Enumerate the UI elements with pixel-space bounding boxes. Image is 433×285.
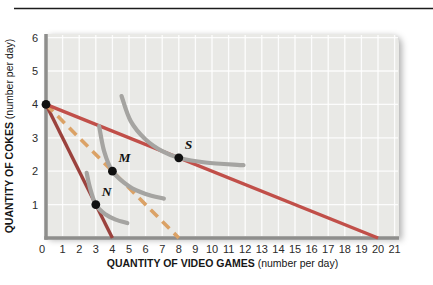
x-tick-label: 21 xyxy=(388,243,400,255)
y-tick-label: 4 xyxy=(32,98,38,110)
x-tick-label: 11 xyxy=(223,243,234,255)
x-tick-label: 0 xyxy=(39,243,45,255)
x-tick-label: 12 xyxy=(239,243,251,255)
x-tick-label: 2 xyxy=(76,243,82,255)
point-label-M: M xyxy=(117,150,131,165)
x-tick-label: 7 xyxy=(159,243,165,255)
x-tick-label: 15 xyxy=(289,243,301,255)
x-tick-label: 4 xyxy=(109,243,115,255)
point-N xyxy=(91,200,100,209)
x-tick-label: 6 xyxy=(143,243,149,255)
x-tick-label: 19 xyxy=(355,243,367,255)
x-tick-label: 3 xyxy=(93,243,99,255)
x-tick-label: 18 xyxy=(339,243,351,255)
point-S xyxy=(174,153,183,162)
x-tick-label: 14 xyxy=(272,243,284,255)
y-tick-label: 5 xyxy=(32,65,38,77)
y-tick-label: 6 xyxy=(32,32,38,44)
point-y-intercept xyxy=(42,100,51,109)
x-tick-label: 20 xyxy=(372,243,384,255)
point-M xyxy=(108,167,117,176)
point-label-S: S xyxy=(185,137,193,152)
y-axis-title: QUANTITY OF COKES (number per day) xyxy=(3,39,15,234)
x-tick-label: 9 xyxy=(192,243,198,255)
x-tick-label: 5 xyxy=(126,243,132,255)
budget-lines-indifference-curves-chart: NMS0123456789101112131415161718192021123… xyxy=(0,0,433,285)
y-tick-label: 2 xyxy=(32,165,38,177)
x-axis-title: QUANTITY OF VIDEO GAMES (number per day) xyxy=(107,257,338,269)
x-tick-label: 8 xyxy=(176,243,182,255)
y-tick-label: 3 xyxy=(32,132,38,144)
x-tick-label: 10 xyxy=(206,243,218,255)
x-tick-label: 13 xyxy=(256,243,268,255)
x-tick-label: 17 xyxy=(322,243,334,255)
textbook-figure: NMS0123456789101112131415161718192021123… xyxy=(0,0,433,285)
point-label-N: N xyxy=(101,184,113,199)
x-tick-label: 16 xyxy=(305,243,317,255)
x-tick-label: 1 xyxy=(60,243,66,255)
y-tick-label: 1 xyxy=(32,199,38,211)
